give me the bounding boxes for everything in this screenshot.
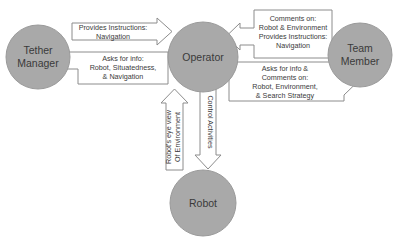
node-tether-manager[interactable]: Tether Manager bbox=[6, 25, 70, 89]
arrow-label-operator-to-tm-line2: Robot, Situatedness, bbox=[90, 63, 157, 72]
arrow-label-operator-to-tm-line1: Asks for info: bbox=[102, 54, 144, 63]
node-label-team-member-line2: Member bbox=[341, 55, 380, 67]
arrow-label-robot-to-operator-line1: Robot's eye view bbox=[164, 109, 173, 164]
node-label-robot: Robot bbox=[189, 197, 217, 209]
node-robot[interactable]: Robot bbox=[170, 170, 236, 236]
node-label-operator: Operator bbox=[182, 51, 224, 63]
arrow-label-operator-to-team-line2: Comments on: bbox=[262, 73, 309, 82]
arrow-label-operator-to-robot-line1: Control Activities bbox=[206, 95, 215, 149]
arrow-operator-to-robot: Control Activities bbox=[195, 88, 221, 169]
arrow-robot-to-operator: Robot's eye view Of Environment bbox=[161, 89, 188, 170]
arrow-label-team-to-operator-line3: Provides Instructions: bbox=[259, 32, 328, 41]
arrow-tether-manager-to-operator: Provides Instructions: Navigation bbox=[72, 18, 172, 45]
arrow-label-team-to-operator-line4: Navigation bbox=[276, 41, 310, 50]
arrow-label-operator-to-tm-line3: & Navigation bbox=[103, 72, 144, 81]
arrow-label-operator-to-team-line4: & Search Strategy bbox=[256, 91, 315, 100]
arrow-label-operator-to-team-line1: Asks for info & bbox=[262, 64, 309, 73]
node-team-member[interactable]: Team Member bbox=[328, 23, 392, 87]
diagram-svg: Provides Instructions: Navigation Asks f… bbox=[0, 0, 398, 241]
node-label-team-member-line1: Team bbox=[347, 42, 373, 54]
node-label-tether-manager-line2: Manager bbox=[17, 57, 59, 69]
node-label-tether-manager-line1: Tether bbox=[23, 44, 53, 56]
node-operator[interactable]: Operator bbox=[168, 22, 238, 92]
arrow-label-tm-to-operator-line1: Provides Instructions: bbox=[79, 23, 148, 32]
diagram-canvas: Provides Instructions: Navigation Asks f… bbox=[0, 0, 398, 241]
arrow-label-team-to-operator-line2: Robot & Environment bbox=[259, 23, 327, 32]
arrow-label-team-to-operator-line1: Comments on: bbox=[270, 14, 317, 23]
arrow-team-member-to-operator: Comments on: Robot & Environment Provide… bbox=[226, 10, 332, 58]
arrow-label-operator-to-team-line3: Robot, Environment, bbox=[252, 82, 318, 91]
arrow-label-robot-to-operator-line2: Of Environment bbox=[173, 112, 182, 162]
arrow-label-tm-to-operator-line2: Navigation bbox=[96, 32, 130, 41]
